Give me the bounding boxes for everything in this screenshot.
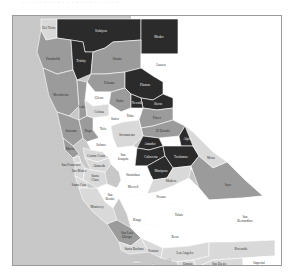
label-san-joaquin-2: Joaquin bbox=[118, 157, 129, 161]
label-tulare: Tulare bbox=[175, 213, 184, 217]
label-tuolumne: Tuolumne bbox=[174, 155, 188, 159]
label-merced: Merced bbox=[128, 185, 139, 189]
label-sacramento: Sacramento bbox=[119, 133, 135, 137]
label-sierra: Sierra bbox=[154, 102, 163, 106]
label-humboldt: Humboldt bbox=[46, 57, 60, 61]
label-calaveras: Calaveras bbox=[144, 155, 158, 159]
label-san-diego: San Diego bbox=[212, 262, 227, 266]
label-lassen: Lassen bbox=[156, 63, 166, 67]
label-siskiyou: Siskiyou bbox=[95, 29, 107, 33]
label-santa-clara-2: Clara bbox=[91, 178, 99, 182]
label-los-angeles: Los Angeles bbox=[177, 251, 195, 255]
label-trinity: Trinity bbox=[76, 59, 86, 63]
label-santa-barbara: Santa Barbara bbox=[124, 247, 144, 251]
label-san-benito-2: Benito bbox=[105, 197, 114, 201]
label-ventura: Ventura bbox=[148, 249, 159, 253]
label-napa: Napa bbox=[84, 129, 92, 133]
label-nevada: Nevada bbox=[132, 101, 143, 105]
label-yolo: Yolo bbox=[100, 127, 107, 131]
label-kings: Kings bbox=[133, 218, 142, 222]
label-inyo: Inyo bbox=[225, 183, 232, 187]
label-yuba: Yuba bbox=[127, 114, 134, 118]
label-glenn: Glenn bbox=[95, 96, 104, 100]
california-county-map: Del Norte Siskiyou Modoc Humboldt Trinit… bbox=[13, 16, 282, 266]
label-shasta: Shasta bbox=[113, 57, 122, 61]
label-amador: Amador bbox=[144, 142, 156, 146]
label-san-mateo: San Mateo bbox=[72, 169, 87, 173]
label-orange: Orange bbox=[183, 262, 193, 266]
label-el-dorado: El Dorado bbox=[156, 129, 170, 133]
map-frame: Del Norte Siskiyou Modoc Humboldt Trinit… bbox=[12, 15, 282, 266]
label-sutter: Sutter bbox=[111, 117, 120, 121]
label-marin: Marin bbox=[66, 147, 75, 151]
label-riverside: Riverside bbox=[235, 247, 248, 251]
label-placer: Placer bbox=[153, 116, 162, 120]
label-san-francisco: San Francisco bbox=[61, 163, 80, 167]
label-solano: Solano bbox=[96, 143, 106, 147]
label-mariposa: Mariposa bbox=[155, 169, 168, 173]
label-contra-costa: Contra Costa bbox=[87, 154, 105, 158]
label-del-norte: Del Norte bbox=[42, 26, 56, 30]
label-monterey: Monterey bbox=[90, 205, 103, 209]
label-plumas: Plumas bbox=[140, 83, 151, 87]
label-alameda: Alameda bbox=[93, 164, 106, 168]
label-stanislaus: Stanislaus bbox=[126, 173, 140, 177]
label-sonoma: Sonoma bbox=[65, 129, 77, 133]
label-santa-cruz: Santa Cruz bbox=[72, 183, 87, 187]
label-imperial: Imperial bbox=[253, 261, 265, 265]
label-lake: Lake bbox=[79, 105, 86, 109]
label-mono: Mono bbox=[207, 156, 215, 160]
label-colusa: Colusa bbox=[94, 110, 104, 114]
label-alpine: Alpine bbox=[183, 137, 193, 141]
label-madera: Madera bbox=[166, 179, 177, 183]
figure-caption-top: · · · · · · · · · · · · · · · · · · · · … bbox=[22, 0, 272, 10]
label-butte: Butte bbox=[116, 99, 124, 103]
label-modoc: Modoc bbox=[154, 35, 164, 39]
label-kern: Kern bbox=[172, 235, 179, 239]
label-fresno: Fresno bbox=[156, 195, 166, 199]
label-san-bernardino-2: Bernardino bbox=[237, 219, 253, 223]
label-mendocino: Mendocino bbox=[53, 93, 69, 97]
label-tehama: Tehama bbox=[104, 81, 115, 85]
label-slo-2: Obispo bbox=[122, 235, 132, 239]
